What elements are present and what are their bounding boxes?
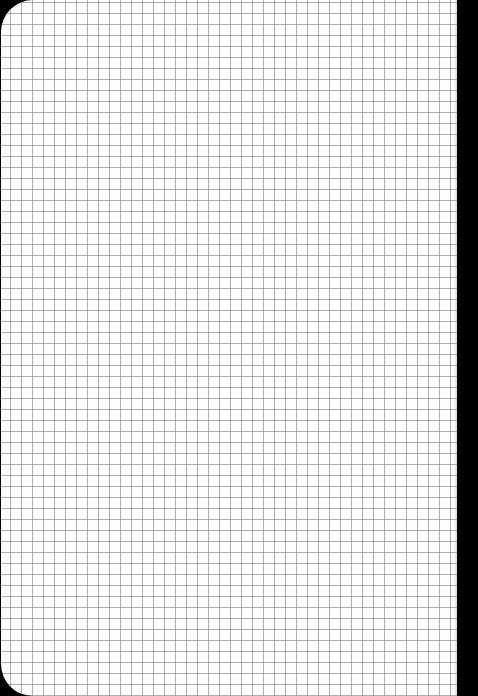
paper-edge-shadow — [454, 0, 457, 696]
graph-paper-sheet — [1, 0, 457, 696]
